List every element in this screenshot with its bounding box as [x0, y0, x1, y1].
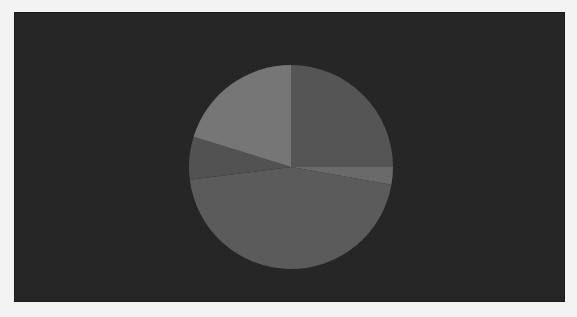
- chart-caption: [16, 304, 561, 317]
- pie-slice-1: [291, 65, 393, 167]
- pie-slice-3: [190, 167, 392, 269]
- pie-slices: [189, 65, 393, 269]
- pie-chart: [0, 0, 577, 317]
